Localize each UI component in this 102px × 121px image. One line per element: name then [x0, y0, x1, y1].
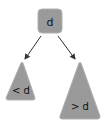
root-node-label: d [47, 16, 54, 29]
left-edge-arrow [25, 36, 41, 59]
right-subtree-triangle: > d [60, 63, 100, 120]
left-subtree-label: < d [12, 85, 30, 96]
bst-diagram: d < d > d [0, 0, 102, 121]
left-subtree-triangle: < d [6, 63, 35, 101]
right-edge-arrow [58, 36, 75, 59]
root-node: d [38, 9, 62, 33]
right-subtree-label: > d [71, 101, 89, 112]
